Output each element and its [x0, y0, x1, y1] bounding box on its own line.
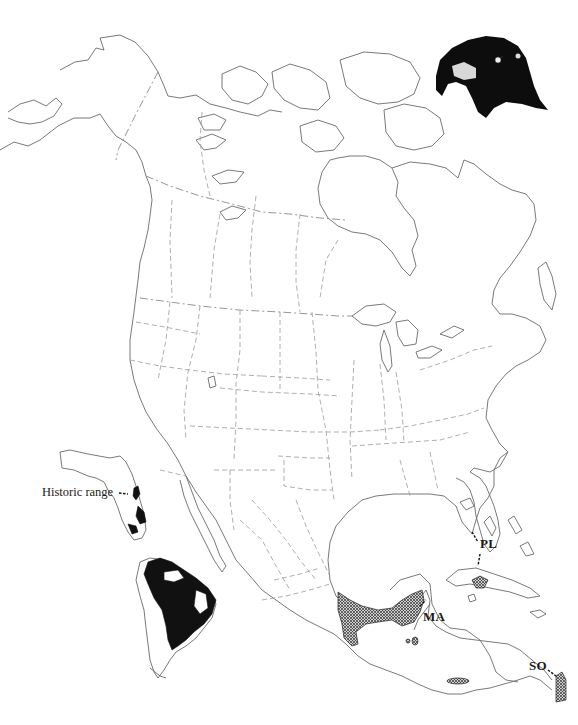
ma-label: MA [423, 609, 445, 625]
so-label: SO [529, 658, 547, 674]
range-map: Historic range PL MA SO [0, 0, 578, 725]
falcon-head-illustration [0, 0, 578, 725]
historic-range-label: Historic range [42, 485, 113, 500]
pl-label: PL [480, 536, 497, 552]
